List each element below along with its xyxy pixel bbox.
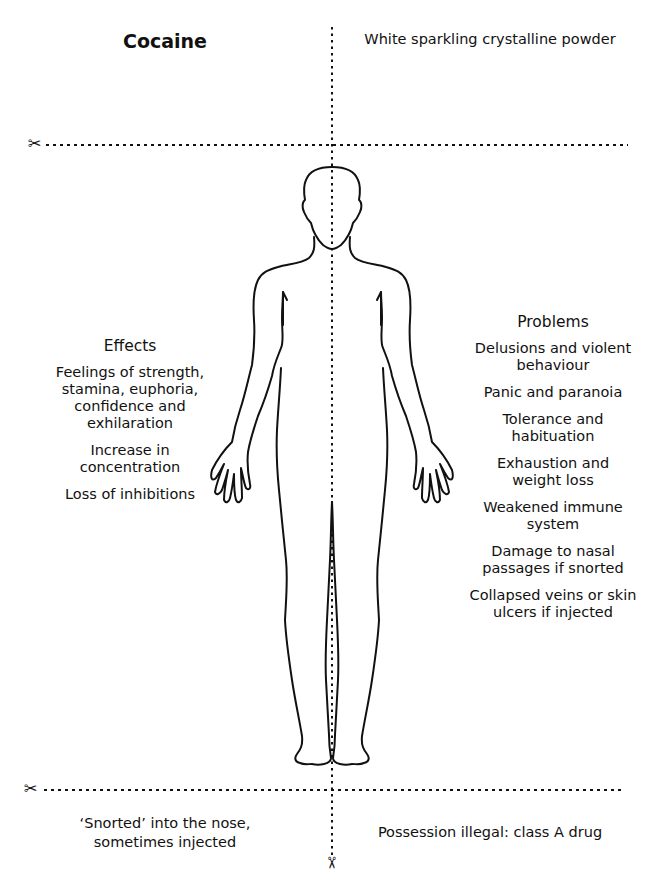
problems-item: Exhaustion and weight loss xyxy=(463,455,643,489)
problems-item: Collapsed veins or skin ulcers if inject… xyxy=(463,587,643,621)
route-of-administration: ‘Snorted’ into the nose, sometimes injec… xyxy=(40,814,290,852)
problems-item: Damage to nasal passages if snorted xyxy=(463,543,643,577)
problems-panel: Problems Delusions and violent behaviour… xyxy=(463,314,643,631)
problems-heading: Problems xyxy=(463,314,643,331)
effects-heading: Effects xyxy=(45,338,215,355)
scissors-icon-top-left: ✂ xyxy=(28,136,41,152)
effects-item: Feelings of strength, stamina, euphoria,… xyxy=(45,364,215,432)
appearance-description: White sparkling crystalline powder xyxy=(360,31,620,47)
scissors-icon-bottom-center: ✂ xyxy=(323,856,339,869)
problems-item: Weakened immune system xyxy=(463,499,643,533)
drug-title: Cocaine xyxy=(80,30,250,52)
effects-panel: Effects Feelings of strength, stamina, e… xyxy=(45,338,215,513)
legal-status: Possession illegal: class A drug xyxy=(360,824,620,840)
problems-item: Delusions and violent behaviour xyxy=(463,340,643,374)
scissors-icon-bottom-left: ✂ xyxy=(24,781,37,797)
problems-item: Tolerance and habituation xyxy=(463,411,643,445)
problems-item: Panic and paranoia xyxy=(463,384,643,401)
effects-item: Increase in concentration xyxy=(45,442,215,476)
effects-item: Loss of inhibitions xyxy=(45,486,215,503)
